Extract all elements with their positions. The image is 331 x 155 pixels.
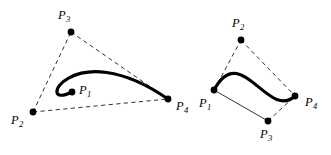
left-hull-segment-p2-p3 (33, 32, 71, 112)
left-label-p4-letter: P (176, 99, 184, 113)
right-label-p4-subscript: 4 (313, 101, 317, 111)
left-control-point-p3[interactable] (68, 29, 75, 36)
left-label-p2-subscript: 2 (19, 119, 23, 129)
right-label-p2: P2 (232, 17, 244, 30)
right-diagram (211, 37, 299, 125)
left-hull-segment-p2-p4 (33, 99, 168, 112)
left-label-p3: P3 (58, 9, 70, 22)
right-label-p4: P4 (305, 96, 317, 109)
left-diagram (30, 29, 172, 116)
left-label-p2-letter: P (11, 113, 19, 127)
left-control-point-p2[interactable] (30, 109, 37, 116)
right-label-p1-subscript: 1 (207, 102, 211, 112)
right-label-p2-letter: P (232, 16, 240, 30)
right-control-point-p1[interactable] (211, 87, 218, 94)
right-control-point-p4[interactable] (292, 93, 299, 100)
right-label-p1: P1 (199, 97, 211, 110)
left-label-p4-subscript: 4 (184, 105, 188, 115)
left-label-p2: P2 (11, 114, 23, 127)
right-label-p3: P3 (260, 128, 272, 141)
right-label-p3-subscript: 3 (268, 133, 272, 143)
right-hull-segment-p2-p4 (241, 40, 295, 96)
left-control-point-p4[interactable] (165, 96, 172, 103)
right-label-p1-letter: P (199, 96, 207, 110)
left-label-p1-subscript: 1 (87, 89, 91, 99)
right-label-p2-subscript: 2 (240, 22, 244, 32)
left-label-p1-letter: P (79, 83, 87, 97)
left-label-p1: P1 (79, 84, 91, 97)
right-label-p3-letter: P (260, 127, 268, 141)
diagram-canvas (0, 0, 331, 155)
bezier-curve-figure: P1 P2 P3 P4 P1 P2 P3 P4 (0, 0, 331, 155)
left-label-p3-letter: P (58, 8, 66, 22)
left-control-point-p1[interactable] (69, 89, 76, 96)
left-label-p4: P4 (176, 100, 188, 113)
right-control-point-p2[interactable] (238, 37, 245, 44)
right-hull-segment-p1-p3 (214, 90, 268, 121)
left-label-p3-subscript: 3 (66, 14, 70, 24)
right-label-p4-letter: P (305, 95, 313, 109)
right-control-point-p3[interactable] (265, 118, 272, 125)
